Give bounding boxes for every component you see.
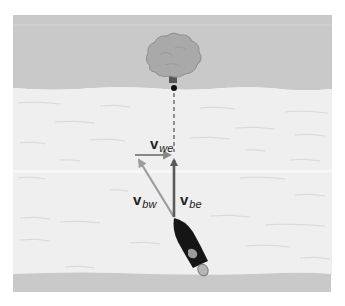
river-crossing-diagram: vwe vbw vbe	[0, 0, 345, 306]
label-v-we: vwe	[150, 136, 173, 154]
label-v-be: vbe	[180, 192, 202, 210]
river-water	[13, 87, 332, 276]
label-v-bw: vbw	[133, 192, 156, 210]
target-point	[171, 85, 177, 91]
bottom-bank	[13, 273, 331, 293]
